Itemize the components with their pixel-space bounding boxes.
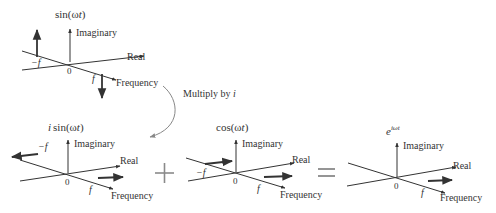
frequency-axis-label: Frequency [111,190,153,201]
pos-freq-phasor-right [428,180,452,181]
real-axis-label: Real [453,160,472,171]
origin-label: 0 [67,66,72,76]
origin-label: 0 [65,177,70,187]
euler-phasor-diagram: sin(ωt) Imaginary Real Frequency 0 −f f … [0,0,496,213]
panel-exp: eiωt Imaginary Real Frequency 0 f [347,124,482,203]
pos-freq-label: f [89,184,93,195]
real-axis [347,167,456,186]
panel-isin: isin(ωt) Imaginary Real Frequency 0 −f f [12,121,153,201]
neg-freq-phasor-right [205,161,232,164]
neg-freq-label: −f [38,141,49,152]
neg-freq-phasor-left [12,154,38,157]
panel-isin-title: isin(ωt) [48,121,84,134]
panel-sin-title: sin(ωt) [55,8,86,21]
frequency-axis-label: Frequency [116,77,158,88]
plus-operator [155,163,174,183]
origin-label: 0 [233,176,238,186]
pos-freq-label: f [257,183,261,194]
pos-freq-label: f [92,73,96,84]
real-axis [20,166,120,181]
real-axis-label: Real [292,154,311,165]
imaginary-axis-label: Imaginary [403,140,444,151]
imaginary-axis-label: Imaginary [74,138,115,149]
panel-cos: cos(ωt) Imaginary Real Frequency 0 −f f [186,121,322,200]
pos-freq-phasor-right [264,176,292,177]
real-axis-label: Real [127,51,146,62]
panel-sin: sin(ωt) Imaginary Real Frequency 0 −f f [22,8,158,98]
curved-arrow-icon [150,86,175,137]
frequency-axis-label: Frequency [280,189,322,200]
frequency-axis-label: Frequency [440,192,482,203]
transform-label: Multiply by i [183,88,236,99]
real-axis-label: Real [120,155,139,166]
panel-exp-title: eiωt [386,124,401,137]
neg-freq-label: −f [31,57,42,68]
panel-cos-title: cos(ωt) [216,121,249,134]
origin-label: 0 [394,181,399,191]
pos-freq-phasor-right [98,177,123,178]
imaginary-axis-label: Imaginary [242,138,283,149]
imaginary-axis-label: Imaginary [76,27,117,38]
neg-freq-label: −f [196,167,207,178]
equals-operator [318,169,335,176]
pos-freq-label: f [421,187,425,198]
